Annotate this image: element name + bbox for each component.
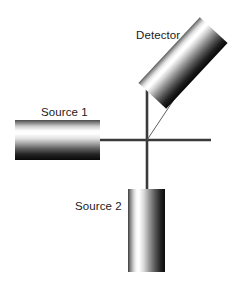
scattering-diagram-figure: Detector Source 1 Source 2 [0,0,241,284]
source-1-label: Source 1 [41,107,88,119]
source-2-cylinder [128,189,165,272]
source-2-label: Source 2 [75,201,122,213]
diagram-canvas [0,0,241,284]
crosshair-axes [98,83,211,189]
source-1-cylinder [15,120,100,160]
detector-label: Detector [136,30,180,42]
